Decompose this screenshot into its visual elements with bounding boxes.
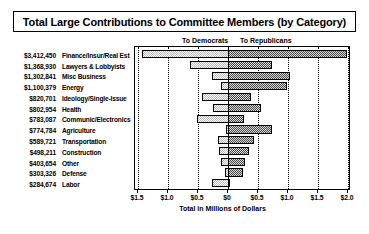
x-tick-label: $1.0 (280, 194, 293, 201)
bar-row (135, 146, 349, 157)
list-item: $802,954Health (8, 104, 132, 115)
bar-row (135, 114, 349, 125)
bar-row (135, 92, 349, 103)
x-tick-label: $1.0 (160, 194, 173, 201)
contribution-amount: $3,412,450 (8, 52, 56, 59)
bar-segment-republicans (228, 158, 245, 166)
category-name: Finance/Insur/Real Est (62, 52, 129, 59)
contribution-amount: $1,368,930 (8, 63, 56, 70)
x-tick-label: $1.5 (310, 194, 323, 201)
category-name: Other (62, 160, 79, 167)
list-item: $303,326Defense (8, 168, 132, 179)
plot-inner (135, 47, 349, 189)
bar-segment-republicans (228, 82, 287, 90)
bar-segment-democrats (212, 72, 229, 80)
bar-segment-democrats (213, 104, 229, 112)
category-name: Health (62, 106, 81, 113)
bar-segment-democrats (197, 115, 229, 123)
bar-segment-republicans (228, 50, 347, 58)
category-name: Lawyers & Lobbyists (62, 63, 125, 70)
x-tick-label: $0.5 (250, 194, 263, 201)
bar-segment-republicans (228, 147, 249, 155)
contribution-amount: $498,211 (8, 149, 56, 156)
bar-segment-republicans (228, 72, 290, 80)
x-tick-mark (347, 190, 348, 193)
chart-figure: Total Large Contributions to Committee M… (0, 0, 369, 234)
bar-segment-democrats (202, 93, 229, 101)
plot-area (134, 46, 350, 190)
bar-row (135, 167, 349, 178)
contribution-amount: $774,784 (8, 127, 56, 134)
x-tick-mark (227, 190, 228, 193)
category-name: Agriculture (62, 127, 96, 134)
bar-segment-republicans (228, 115, 244, 123)
bar-row (135, 157, 349, 168)
list-item: $589,721Transportation (8, 136, 132, 147)
x-tick-mark (287, 190, 288, 193)
list-item: $498,211Construction (8, 147, 132, 158)
category-name: Misc Business (62, 73, 106, 80)
bar-row (135, 178, 349, 189)
category-name: Ideology/Single-Issue (62, 95, 127, 102)
bar-segment-republicans (228, 61, 272, 69)
category-name: Communic/Electronics (62, 116, 130, 123)
legend-label-republicans: To Republicans (240, 37, 292, 44)
legend-label-democrats: To Democrats (182, 37, 228, 44)
contribution-amount: $303,326 (8, 170, 56, 177)
chart-title-box: Total Large Contributions to Committee M… (13, 11, 356, 32)
list-item: $1,368,930Lawyers & Lobbyists (8, 61, 132, 72)
contribution-amount: $820,701 (8, 95, 56, 102)
bar-segment-democrats (212, 179, 229, 187)
list-item: $783,087Communic/Electronics (8, 115, 132, 126)
contribution-amount: $403,654 (8, 160, 56, 167)
bar-segment-republicans (228, 168, 243, 176)
x-tick-mark (257, 190, 258, 193)
bar-segment-republicans (228, 125, 272, 133)
contribution-amount: $802,954 (8, 106, 56, 113)
bar-row (135, 81, 349, 92)
category-name: Transportation (62, 138, 106, 145)
x-tick-mark (167, 190, 168, 193)
bar-segment-republicans (228, 136, 254, 144)
x-tick-label: $1.5 (130, 194, 143, 201)
category-name: Defense (62, 170, 87, 177)
contribution-amount: $284,674 (8, 181, 56, 188)
bar-row (135, 124, 349, 135)
category-name: Construction (62, 149, 101, 156)
list-item: $1,302,841Misc Business (8, 72, 132, 83)
list-item: $820,701Ideology/Single-Issue (8, 93, 132, 104)
x-tick-mark (137, 190, 138, 193)
bar-segment-republicans (228, 93, 251, 101)
list-item: $1,100,379Energy (8, 82, 132, 93)
bar-row (135, 60, 349, 71)
x-tick-mark (317, 190, 318, 193)
x-tick-label: $0.5 (190, 194, 203, 201)
bar-segment-republicans (228, 104, 261, 112)
list-item: $3,412,450Finance/Insur/Real Est (8, 50, 132, 61)
category-name: Labor (62, 181, 80, 188)
x-tick-label: $0 (223, 194, 231, 201)
bar-segment-democrats (142, 50, 229, 58)
bar-row (135, 49, 349, 60)
bar-row (135, 103, 349, 114)
x-tick-label: $2.0 (340, 194, 353, 201)
bar-row (135, 135, 349, 146)
contribution-amount: $589,721 (8, 138, 56, 145)
x-tick-mark (197, 190, 198, 193)
category-label-column: $3,412,450Finance/Insur/Real Est$1,368,9… (8, 48, 132, 188)
bar-segment-democrats (190, 61, 229, 69)
list-item: $774,784Agriculture (8, 125, 132, 136)
list-item: $284,674Labor (8, 179, 132, 190)
contribution-amount: $1,100,379 (8, 84, 56, 91)
contribution-amount: $1,302,841 (8, 73, 56, 80)
list-item: $403,654Other (8, 158, 132, 169)
page-title: Total Large Contributions to Committee M… (23, 16, 346, 28)
bar-segment-republicans (228, 179, 230, 187)
x-axis-label: Total in Millions of Dollars (0, 205, 369, 212)
contribution-amount: $783,087 (8, 116, 56, 123)
bar-row (135, 71, 349, 82)
category-name: Energy (62, 84, 83, 91)
